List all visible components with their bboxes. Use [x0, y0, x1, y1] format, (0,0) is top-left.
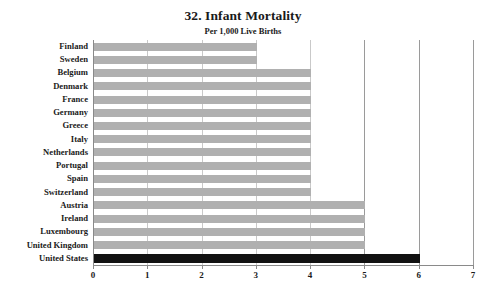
category-label: United States — [0, 252, 88, 265]
bar-row: France — [0, 93, 486, 106]
category-label: Switzerland — [0, 186, 88, 199]
x-tick-label: 4 — [298, 270, 322, 280]
bar-row: Spain — [0, 172, 486, 185]
x-tick-label: 3 — [244, 270, 268, 280]
bar — [94, 56, 257, 64]
x-axis-line — [93, 265, 473, 266]
bar-row: Belgium — [0, 66, 486, 79]
chart-title-block: 32. Infant Mortality Per 1,000 Live Birt… — [0, 8, 486, 36]
bar-row: Finland — [0, 40, 486, 53]
tick-mark-2 — [202, 265, 203, 269]
bar — [94, 175, 311, 183]
x-tick-label: 5 — [352, 270, 376, 280]
bar — [94, 201, 365, 209]
category-label: Greece — [0, 119, 88, 132]
tick-mark-3 — [256, 265, 257, 269]
bar — [94, 43, 257, 51]
bar — [94, 162, 311, 170]
x-tick-label: 2 — [190, 270, 214, 280]
category-label: Netherlands — [0, 146, 88, 159]
bar-row: Greece — [0, 119, 486, 132]
bar-row: United Kingdom — [0, 239, 486, 252]
bar — [94, 241, 365, 249]
tick-mark-0 — [93, 265, 94, 269]
bar-row: Italy — [0, 133, 486, 146]
category-label: Italy — [0, 133, 88, 146]
bar — [94, 109, 311, 117]
category-label: Germany — [0, 106, 88, 119]
category-label: Luxembourg — [0, 225, 88, 238]
x-tick-label: 7 — [461, 270, 485, 280]
category-label: United Kingdom — [0, 239, 88, 252]
bar-row: Switzerland — [0, 186, 486, 199]
bar — [94, 82, 311, 90]
bar-row: Denmark — [0, 80, 486, 93]
page-title: 32. Infant Mortality — [0, 8, 486, 23]
category-label: Sweden — [0, 53, 88, 66]
bar — [94, 215, 365, 223]
category-label: Austria — [0, 199, 88, 212]
category-label: Portugal — [0, 159, 88, 172]
bar-row: Austria — [0, 199, 486, 212]
bar-row: Germany — [0, 106, 486, 119]
bar-row: Portugal — [0, 159, 486, 172]
bar — [94, 96, 311, 104]
bar — [94, 228, 365, 236]
bar-highlight — [94, 254, 420, 263]
x-tick-label: 0 — [81, 270, 105, 280]
chart-subtitle: Per 1,000 Live Births — [0, 26, 486, 36]
x-tick-label: 6 — [407, 270, 431, 280]
tick-mark-4 — [310, 265, 311, 269]
tick-mark-5 — [364, 265, 365, 269]
bar-row: Ireland — [0, 212, 486, 225]
bar — [94, 148, 311, 156]
tick-mark-7 — [473, 265, 474, 269]
category-label: Denmark — [0, 80, 88, 93]
category-label: Belgium — [0, 66, 88, 79]
category-label: France — [0, 93, 88, 106]
tick-mark-6 — [419, 265, 420, 269]
category-label: Spain — [0, 172, 88, 185]
bar-row: Netherlands — [0, 146, 486, 159]
infant-mortality-chart: 32. Infant Mortality Per 1,000 Live Birt… — [0, 0, 486, 295]
bar — [94, 69, 311, 77]
bar — [94, 135, 311, 143]
tick-mark-1 — [147, 265, 148, 269]
x-tick-label: 1 — [135, 270, 159, 280]
bar-row: United States — [0, 252, 486, 265]
bar — [94, 122, 311, 130]
bar-row: Luxembourg — [0, 225, 486, 238]
bar — [94, 188, 311, 196]
category-label: Finland — [0, 40, 88, 53]
category-label: Ireland — [0, 212, 88, 225]
bar-row: Sweden — [0, 53, 486, 66]
